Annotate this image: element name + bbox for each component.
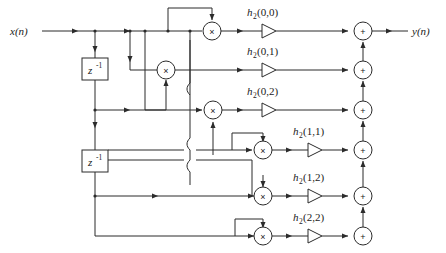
row-2-branch: × h 2 (0,1) — [157, 45, 348, 79]
gain-label-row-5-args: (1,2) — [303, 171, 324, 184]
row-1-branch: × h 2 (0,0) — [203, 6, 348, 40]
gain-label-row-6-args: (2,2) — [303, 211, 324, 224]
adder-row-1-symbol: + — [360, 27, 365, 37]
gain-triangle-row-3 — [262, 103, 276, 117]
adder-row-5-symbol: + — [360, 192, 365, 202]
multiplier-row-5-symbol: × — [260, 192, 265, 202]
input-tap-column-a — [128, 29, 158, 70]
delay-block-1: z -1 — [82, 58, 108, 80]
multiplier-row-2-symbol: × — [163, 66, 168, 76]
signal-flow-diagram: z -1 z -1 — [0, 0, 446, 253]
gain-label-row-2-args: (0,1) — [257, 45, 278, 58]
delay-block-2: z -1 — [82, 150, 108, 172]
delay-2-label: z — [87, 156, 93, 168]
row-3-branch: × h 2 (0,2) — [204, 85, 348, 119]
delay-1-exponent: -1 — [96, 61, 102, 70]
row-5-branch: × h 2 (1,2) — [108, 160, 348, 205]
adder-row-4-symbol: + — [360, 146, 365, 156]
diagram-canvas: z -1 z -1 — [0, 0, 446, 253]
gain-triangle-row-4 — [308, 143, 322, 157]
row-6-branch: × h 2 (2,2) — [235, 211, 348, 245]
adder-row-3-symbol: + — [360, 106, 365, 116]
multiplier-row-3-symbol: × — [210, 106, 215, 116]
multiplier-row-4-symbol: × — [260, 146, 265, 156]
delay1-output-path — [93, 80, 162, 150]
multiplier-row-1-symbol: × — [209, 27, 214, 37]
input-tap-column-c — [187, 29, 192, 185]
gain-label-row-3-args: (0,2) — [257, 85, 278, 98]
adder-row-2-symbol: + — [360, 66, 365, 76]
adder-row-6-symbol: + — [360, 232, 365, 242]
gain-triangle-row-2 — [262, 63, 276, 77]
gain-label-row-4-args: (1,1) — [303, 125, 324, 138]
delay2-output-path — [93, 172, 252, 236]
row-4-branch: × h 2 (1,1) — [108, 125, 348, 159]
input-branch-to-delay1 — [93, 29, 96, 58]
delay-1-label: z — [87, 64, 93, 76]
delay-2-exponent: -1 — [96, 153, 102, 162]
output-label: y(n) — [411, 25, 430, 38]
multiplier-row-6-symbol: × — [260, 232, 265, 242]
gain-label-row-1-args: (0,0) — [257, 6, 278, 19]
input-label: x(n) — [9, 25, 28, 38]
gain-triangle-row-6 — [308, 229, 322, 243]
gain-triangle-row-1 — [262, 24, 276, 38]
adder-chain: + + + + + + — [354, 22, 372, 245]
gain-triangle-row-5 — [308, 189, 322, 203]
